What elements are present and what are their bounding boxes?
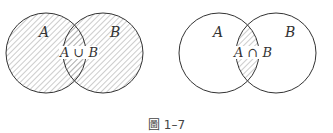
union-operation-label: A ∪ B	[59, 46, 99, 59]
figure-caption: 圖 1–7	[0, 115, 333, 132]
venn-diagrams	[0, 0, 333, 133]
intersection-label-a: A	[213, 25, 223, 39]
intersection-label-b: B	[285, 25, 295, 39]
intersection-operation-label: A ∩ B	[233, 46, 273, 59]
union-label-a: A	[39, 25, 49, 39]
union-label-b: B	[110, 25, 120, 39]
